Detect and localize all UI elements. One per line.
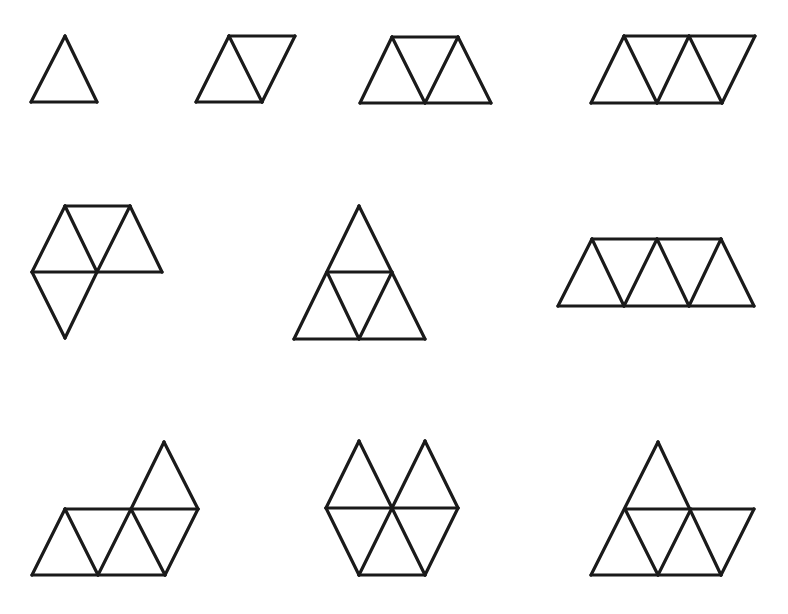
edge-line bbox=[425, 37, 458, 103]
edge-line bbox=[657, 36, 689, 103]
figure-fig2 bbox=[196, 36, 295, 102]
edge-line bbox=[327, 272, 359, 339]
edge-line bbox=[360, 37, 392, 103]
edge-line bbox=[31, 36, 65, 102]
edge-line bbox=[721, 509, 754, 575]
edge-line bbox=[359, 272, 392, 339]
figure-fig3 bbox=[360, 37, 491, 103]
edge-line bbox=[658, 509, 691, 575]
edge-line bbox=[458, 37, 491, 103]
edge-line bbox=[722, 36, 755, 103]
edge-line bbox=[625, 509, 658, 575]
figure-fig10 bbox=[591, 442, 754, 575]
edge-line bbox=[131, 442, 164, 509]
edge-line bbox=[65, 272, 97, 338]
edge-line bbox=[392, 508, 425, 575]
edge-line bbox=[326, 508, 359, 575]
figure-fig9 bbox=[326, 441, 458, 575]
edge-line bbox=[65, 206, 97, 272]
edge-line bbox=[326, 441, 359, 508]
edge-line bbox=[65, 36, 97, 102]
edge-line bbox=[657, 239, 689, 306]
edge-line bbox=[65, 509, 98, 575]
edge-line bbox=[359, 441, 392, 508]
edge-line bbox=[229, 36, 262, 102]
edge-line bbox=[592, 239, 624, 306]
edge-line bbox=[624, 239, 657, 306]
edge-line bbox=[32, 206, 65, 272]
figure-fig4 bbox=[591, 36, 755, 103]
polyiamond-diagram bbox=[0, 0, 788, 614]
edge-line bbox=[591, 36, 624, 103]
edge-line bbox=[130, 206, 162, 272]
edge-line bbox=[98, 509, 131, 575]
edge-line bbox=[689, 239, 721, 306]
figure-fig7 bbox=[558, 239, 754, 306]
edge-line bbox=[32, 509, 65, 575]
edge-line bbox=[392, 37, 425, 103]
edge-line bbox=[425, 508, 458, 575]
figure-fig1 bbox=[31, 36, 97, 102]
edge-line bbox=[624, 36, 657, 103]
edge-line bbox=[164, 442, 198, 509]
edge-line bbox=[425, 441, 458, 508]
edge-line bbox=[165, 509, 198, 575]
edge-line bbox=[721, 239, 754, 306]
edge-line bbox=[359, 508, 392, 575]
edge-line bbox=[689, 36, 722, 103]
edge-line bbox=[196, 36, 229, 102]
edge-line bbox=[97, 206, 130, 272]
edge-line bbox=[32, 272, 65, 338]
edge-line bbox=[558, 239, 592, 306]
edge-line bbox=[262, 36, 295, 102]
figure-fig8 bbox=[32, 442, 198, 575]
figure-fig6 bbox=[294, 206, 425, 339]
edge-line bbox=[131, 509, 165, 575]
figure-fig5 bbox=[32, 206, 162, 338]
edge-line bbox=[392, 441, 425, 508]
